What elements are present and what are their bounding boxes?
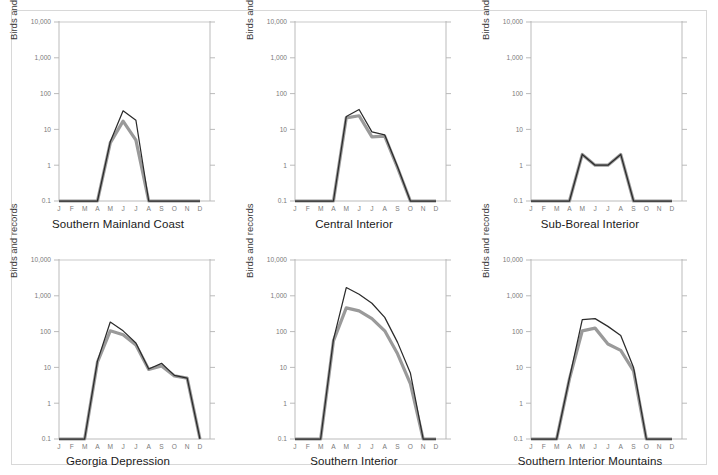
svg-text:A: A [95,443,100,450]
svg-text:0.1: 0.1 [42,435,51,442]
panel-title: Southern Mainland Coast [0,218,236,230]
svg-text:J: J [529,443,532,450]
svg-text:D: D [670,443,675,450]
chart-4: 10,0001,0001001010.1JFMAMJJASOND [236,238,472,475]
svg-text:S: S [395,205,400,212]
svg-text:N: N [657,205,662,212]
svg-text:10,000: 10,000 [31,18,52,25]
svg-text:M: M [108,443,114,450]
svg-text:J: J [357,443,360,450]
svg-text:1: 1 [47,400,51,407]
svg-text:S: S [159,443,164,450]
svg-text:10,000: 10,000 [31,256,52,263]
svg-text:1: 1 [283,162,287,169]
svg-text:J: J [370,443,373,450]
svg-text:D: D [670,205,675,212]
svg-text:1: 1 [283,400,287,407]
svg-text:10: 10 [516,364,524,371]
svg-text:N: N [421,443,426,450]
svg-text:A: A [567,205,572,212]
panel-title: Southern Interior [236,455,472,467]
svg-text:1: 1 [519,162,523,169]
panel-title: Georgia Depression [0,455,236,467]
svg-text:J: J [57,443,60,450]
svg-text:10,000: 10,000 [503,256,524,263]
panel-title: Southern Interior Mountains [472,455,708,467]
panel-southern-interior-mountains: Birds and records 10,0001,0001001010.1JF… [472,238,708,475]
svg-text:N: N [185,205,190,212]
panel-sub-boreal-interior: Birds and records 10,0001,0001001010.1JF… [472,0,708,238]
panel-title: Central Interior [236,218,472,230]
chart-0: 10,0001,0001001010.1JFMAMJJASOND [0,0,236,238]
panel-georgia-depression: Birds and records 10,0001,0001001010.1JF… [0,238,236,475]
svg-text:S: S [631,205,636,212]
svg-text:0.1: 0.1 [42,197,51,204]
svg-text:F: F [306,205,310,212]
y-axis-label: Birds and records [8,0,19,40]
panel-southern-interior: Birds and records 10,0001,0001001010.1JF… [236,238,472,475]
svg-text:100: 100 [276,328,287,335]
svg-text:M: M [580,443,586,450]
svg-text:100: 100 [276,90,287,97]
svg-text:M: M [554,443,560,450]
svg-text:O: O [644,443,649,450]
svg-text:0.1: 0.1 [278,435,287,442]
svg-text:A: A [383,443,388,450]
svg-text:1,000: 1,000 [506,54,523,61]
svg-text:A: A [147,443,152,450]
svg-text:0.1: 0.1 [514,435,523,442]
svg-text:A: A [619,205,624,212]
panel-title: Sub-Boreal Interior [472,218,708,230]
svg-text:J: J [529,205,532,212]
svg-text:F: F [70,443,74,450]
svg-text:1,000: 1,000 [506,292,523,299]
chart-2: 10,0001,0001001010.1JFMAMJJASOND [472,0,708,238]
svg-text:A: A [567,443,572,450]
svg-text:J: J [370,205,373,212]
svg-text:M: M [344,443,350,450]
svg-text:F: F [542,443,546,450]
svg-text:M: M [318,205,324,212]
svg-text:J: J [121,443,124,450]
svg-text:10,000: 10,000 [267,18,288,25]
panel-southern-mainland-coast: Birds and records 10,0001,0001001010.1JF… [0,0,236,238]
svg-text:J: J [134,205,137,212]
svg-text:J: J [134,443,137,450]
svg-text:0.1: 0.1 [278,197,287,204]
svg-text:J: J [606,443,609,450]
y-axis-label: Birds and records [244,0,255,40]
svg-text:M: M [344,205,350,212]
svg-text:F: F [70,205,74,212]
svg-text:1,000: 1,000 [270,54,287,61]
figure-panel-grid: Birds and records 10,0001,0001001010.1JF… [0,0,718,475]
svg-text:10: 10 [516,126,524,133]
svg-text:M: M [554,205,560,212]
y-axis-label: Birds and records [244,158,255,278]
svg-text:A: A [331,205,336,212]
svg-text:10: 10 [280,126,288,133]
chart-5: 10,0001,0001001010.1JFMAMJJASOND [472,238,708,475]
svg-text:J: J [357,205,360,212]
svg-text:D: D [198,205,203,212]
svg-text:100: 100 [512,90,523,97]
svg-text:1,000: 1,000 [34,292,51,299]
svg-text:1,000: 1,000 [34,54,51,61]
y-axis-label: Birds and records [8,158,19,278]
svg-text:J: J [606,205,609,212]
svg-text:10: 10 [44,126,52,133]
svg-text:10: 10 [280,364,288,371]
svg-text:O: O [172,443,177,450]
svg-text:M: M [108,205,114,212]
svg-text:100: 100 [512,328,523,335]
svg-text:10,000: 10,000 [267,256,288,263]
svg-text:N: N [421,205,426,212]
svg-text:D: D [434,205,439,212]
chart-1: 10,0001,0001001010.1JFMAMJJASOND [236,0,472,238]
svg-text:S: S [631,443,636,450]
svg-text:F: F [306,443,310,450]
svg-text:O: O [408,205,413,212]
svg-text:F: F [542,205,546,212]
svg-text:1,000: 1,000 [270,292,287,299]
svg-text:O: O [172,205,177,212]
svg-text:O: O [408,443,413,450]
